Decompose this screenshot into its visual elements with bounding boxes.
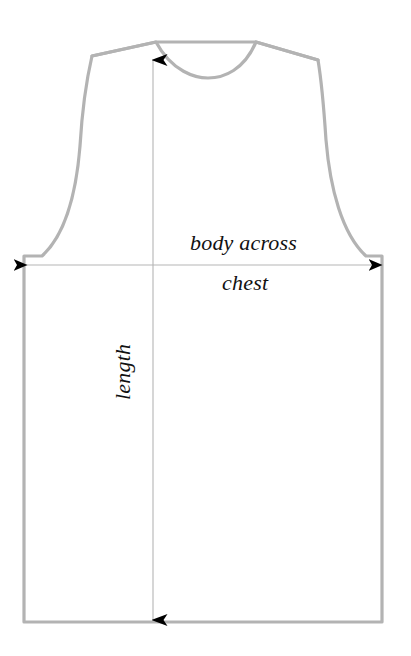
garment-outline: [24, 42, 382, 622]
body-across-label: body across: [190, 232, 297, 254]
garment-outline-path: [24, 42, 382, 622]
diagram-canvas: [0, 0, 411, 656]
length-label: length: [112, 344, 134, 400]
garment-measurement-diagram: body across chest length: [0, 0, 411, 656]
chest-label: chest: [222, 272, 268, 294]
